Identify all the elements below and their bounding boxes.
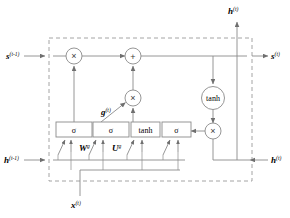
input-gate-label: σ (109, 126, 114, 135)
output-multiply-symbol: × (210, 126, 215, 136)
input-x-label: x(t) (70, 200, 81, 210)
output-mult-down-wire (213, 139, 237, 160)
input-gate-h-input (89, 140, 96, 155)
state-add-symbol: + (130, 52, 135, 62)
lstm-cell-diagram: × + × tanh × (0, 0, 290, 218)
hidden-out-right-label: h(t) (271, 155, 281, 165)
hidden-out-top-label: h(t) (228, 6, 238, 16)
weight-u-label: Ug (112, 143, 122, 153)
state-tanh-label: tanh (206, 94, 220, 103)
output-gate-h-input (163, 140, 170, 155)
output-gate-label: σ (174, 126, 179, 135)
state-out-label: s(t) (270, 51, 280, 61)
forget-gate-h-input (58, 140, 65, 155)
candidate-gate-label: tanh (139, 126, 153, 135)
state-in-label: s(t-1) (5, 51, 20, 61)
diagram-canvas: × + × tanh × (0, 0, 290, 218)
input-multiply-symbol: × (130, 93, 135, 103)
hidden-in-label: h(t-1) (4, 155, 19, 165)
weight-w-label: Wg (79, 143, 90, 153)
forget-gate-label: σ (72, 126, 77, 135)
forget-multiply-symbol: × (71, 51, 76, 61)
candidate-gate-h-input (127, 140, 134, 155)
